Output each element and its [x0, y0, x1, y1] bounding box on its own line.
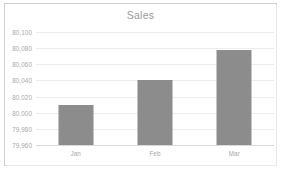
bar[interactable]: [217, 50, 252, 145]
y-axis-tick-label: 80,080: [12, 45, 32, 52]
bar[interactable]: [137, 80, 172, 145]
y-axis-tick-label: 80,000: [12, 109, 32, 116]
y-axis-tick-label: 80,060: [12, 61, 32, 68]
x-axis-tick-label: Jan: [70, 150, 80, 157]
y-axis-tick-label: 79,980: [12, 125, 32, 132]
plot-area: 79,96079,98080,00080,02080,04080,06080,0…: [36, 32, 274, 145]
x-axis-tick-label: Feb: [149, 150, 160, 157]
y-axis-tick-label: 80,020: [12, 93, 32, 100]
gridline: [36, 145, 274, 146]
chart-container[interactable]: Sales 79,96079,98080,00080,02080,04080,0…: [4, 3, 277, 166]
bar[interactable]: [58, 105, 93, 145]
y-axis-tick-label: 80,040: [12, 77, 32, 84]
bar-series: JanFebMar: [36, 32, 274, 145]
bar-group: Mar: [195, 32, 274, 145]
x-axis-tick-label: Mar: [229, 150, 240, 157]
chart-title: Sales: [5, 9, 276, 21]
bar-group: Feb: [115, 32, 194, 145]
bar-group: Jan: [36, 32, 115, 145]
y-axis-tick-label: 80,100: [12, 29, 32, 36]
y-axis-tick-label: 79,960: [12, 142, 32, 149]
